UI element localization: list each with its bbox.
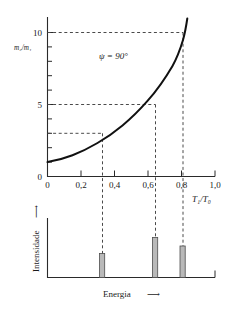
- spectral-bar-2: [153, 238, 158, 278]
- spectral-bar-1: [100, 254, 105, 278]
- bottom-chart-y-axis-arrow: ⟶: [31, 205, 41, 218]
- bottom-chart-x-axis-label: Energia: [103, 289, 131, 299]
- top-chart-xtick-02: 0,2: [75, 180, 86, 190]
- top-chart-x-axis-label: T₁/T₀: [192, 194, 211, 204]
- top-chart-y-axis-label: m₂/m₁: [14, 44, 32, 52]
- top-chart-ytick-10: 10: [33, 28, 43, 38]
- figure-container: m₂/m₁ 10 5 0 0 0,2 0,4 0,6 0,8 1,0 T₁/T₀…: [0, 0, 240, 311]
- top-chart-x-ticks: [48, 171, 216, 177]
- top-chart-xtick-04: 0,4: [109, 180, 121, 190]
- bottom-chart-x-axis-arrow: ⟶: [147, 289, 160, 299]
- bottom-chart-y-axis-label: Intensidade: [31, 231, 41, 272]
- psi-angle-annotation: ψ = 90°: [99, 51, 128, 61]
- spectral-bar-3: [180, 246, 185, 278]
- top-chart-ytick-5: 5: [38, 100, 43, 110]
- top-chart-xtick-10: 1,0: [209, 180, 221, 190]
- physics-figure-svg: m₂/m₁ 10 5 0 0 0,2 0,4 0,6 0,8 1,0 T₁/T₀…: [0, 0, 240, 311]
- top-chart-axes: [48, 17, 216, 177]
- bottom-chart-group: Intensidade ⟶ Energia ⟶: [31, 205, 215, 299]
- top-chart-y-major-ticks: [48, 33, 54, 105]
- top-chart-xtick-06: 0,6: [142, 180, 154, 190]
- top-chart-group: m₂/m₁ 10 5 0 0 0,2 0,4 0,6 0,8 1,0 T₁/T₀…: [14, 17, 221, 268]
- top-chart-xtick-0: 0: [45, 180, 50, 190]
- top-chart-xtick-08: 0,8: [176, 180, 188, 190]
- top-chart-ytick-0: 0: [38, 172, 43, 182]
- bottom-chart-axes: [48, 218, 216, 278]
- top-chart-curve: [48, 19, 188, 163]
